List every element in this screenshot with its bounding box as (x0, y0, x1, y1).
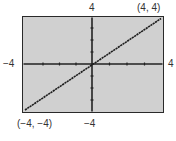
label-xmin: −4 (3, 58, 14, 70)
label-xmax: 4 (168, 58, 174, 70)
label-point-4-4: (4, 4) (137, 2, 160, 14)
label-point-neg4-neg4: (−4, −4) (17, 118, 52, 130)
label-ymax: 4 (89, 2, 95, 14)
label-ymin: −4 (84, 118, 95, 130)
